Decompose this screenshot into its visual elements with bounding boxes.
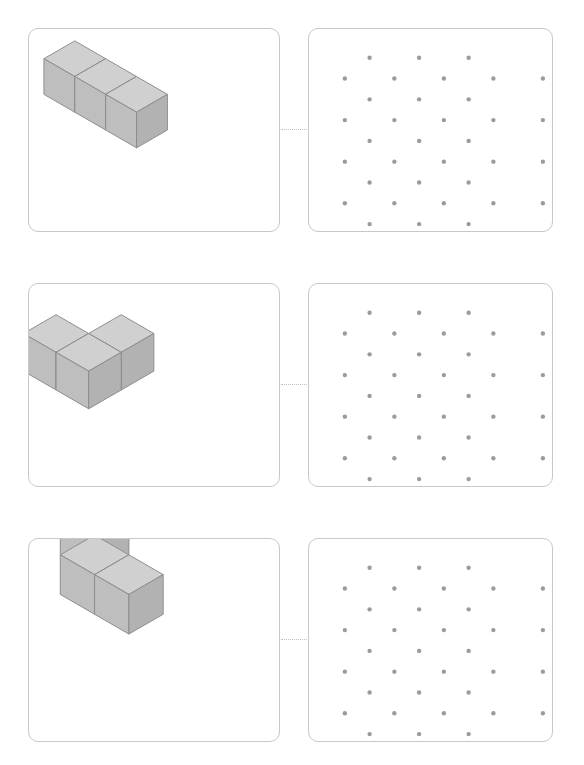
worksheet-page [0, 0, 584, 765]
grid-dot [367, 732, 371, 736]
grid-dot [367, 311, 371, 315]
grid-dot [466, 435, 470, 439]
grid-dot [491, 456, 495, 460]
grid-dot [392, 201, 396, 205]
grid-dot [343, 160, 347, 164]
grid-dot [392, 331, 396, 335]
dot-grid-drawing-1 [309, 29, 552, 231]
shape-panel-1[interactable] [28, 28, 280, 232]
grid-dot [392, 118, 396, 122]
shape-panel-2[interactable] [28, 283, 280, 487]
grid-dot [417, 690, 421, 694]
grid-dot [343, 670, 347, 674]
grid-dot [392, 670, 396, 674]
grid-dot [392, 160, 396, 164]
grid-dot [343, 415, 347, 419]
grid-dot [417, 732, 421, 736]
grid-dot [491, 331, 495, 335]
cube-shape-2 [29, 315, 154, 409]
grid-dot [466, 690, 470, 694]
grid-dot [442, 670, 446, 674]
dot-grid [343, 311, 545, 482]
grid-dot [491, 201, 495, 205]
grid-dot [343, 76, 347, 80]
grid-dot [343, 331, 347, 335]
dot-grid-drawing-2 [309, 284, 552, 486]
problem-row-2 [0, 283, 584, 487]
grid-dot [343, 586, 347, 590]
grid-dot [442, 201, 446, 205]
grid-dot [541, 415, 545, 419]
grid-dot [442, 160, 446, 164]
dot-grid-drawing-3 [309, 539, 552, 741]
grid-dot [541, 160, 545, 164]
connector-line-1 [281, 129, 307, 131]
grid-dot [541, 711, 545, 715]
grid-dot [417, 56, 421, 60]
problem-row-1 [0, 28, 584, 232]
grid-dot [367, 222, 371, 226]
grid-dot [392, 76, 396, 80]
grid-dot [466, 139, 470, 143]
grid-dot [466, 352, 470, 356]
grid-dot [491, 670, 495, 674]
grid-dot [491, 118, 495, 122]
grid-dot [367, 477, 371, 481]
grid-dot [343, 628, 347, 632]
grid-dot [392, 415, 396, 419]
grid-dot [491, 373, 495, 377]
grid-dot [392, 456, 396, 460]
grid-dot [466, 97, 470, 101]
grid-dot [541, 456, 545, 460]
grid-dot [417, 180, 421, 184]
grid-dot [392, 586, 396, 590]
grid-dot [367, 352, 371, 356]
grid-dot [417, 607, 421, 611]
grid-dot [442, 76, 446, 80]
grid-dot [343, 201, 347, 205]
grid-dot [417, 222, 421, 226]
dot-grid [343, 56, 545, 227]
grid-dot [466, 477, 470, 481]
cube-shape-3 [60, 539, 163, 634]
shape-drawing-1 [29, 29, 279, 231]
grid-dot [367, 690, 371, 694]
grid-dot [541, 628, 545, 632]
grid-dot [541, 670, 545, 674]
grid-dot [466, 732, 470, 736]
connector-line-3 [281, 639, 307, 641]
grid-dot [541, 118, 545, 122]
grid-dot [367, 139, 371, 143]
shape-panel-3[interactable] [28, 538, 280, 742]
grid-dot [367, 394, 371, 398]
grid-dot [343, 373, 347, 377]
grid-dot [417, 394, 421, 398]
grid-dot [466, 649, 470, 653]
grid-dot [417, 97, 421, 101]
grid-dot [442, 415, 446, 419]
grid-dot [367, 566, 371, 570]
grid-dot [392, 373, 396, 377]
shape-drawing-2 [29, 284, 279, 486]
dot-grid-panel-3[interactable] [308, 538, 553, 742]
cube-shape-1 [44, 41, 167, 148]
shape-drawing-3 [29, 539, 279, 741]
grid-dot [417, 311, 421, 315]
grid-dot [491, 415, 495, 419]
grid-dot [541, 373, 545, 377]
problem-row-3 [0, 538, 584, 742]
grid-dot [491, 76, 495, 80]
grid-dot [466, 56, 470, 60]
grid-dot [442, 711, 446, 715]
grid-dot [442, 628, 446, 632]
grid-dot [442, 586, 446, 590]
grid-dot [417, 352, 421, 356]
grid-dot [417, 566, 421, 570]
grid-dot [491, 586, 495, 590]
grid-dot [491, 160, 495, 164]
grid-dot [491, 628, 495, 632]
grid-dot [466, 180, 470, 184]
grid-dot [343, 711, 347, 715]
dot-grid-panel-1[interactable] [308, 28, 553, 232]
dot-grid-panel-2[interactable] [308, 283, 553, 487]
